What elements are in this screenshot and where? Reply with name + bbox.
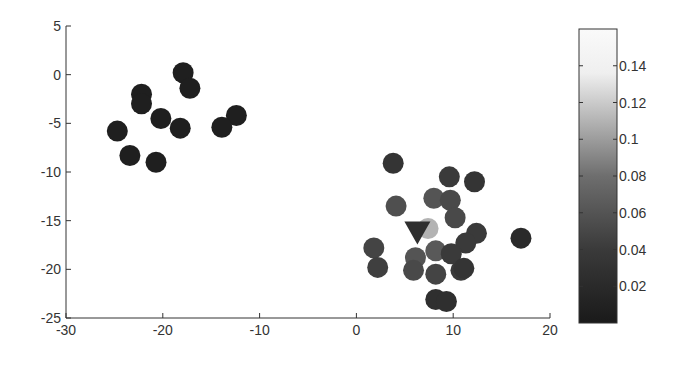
data-point — [131, 93, 152, 114]
plot-area — [107, 62, 532, 312]
data-point — [146, 152, 167, 173]
colorbar-tick-label: 0.04 — [619, 242, 646, 258]
y-tick-label: -15 — [41, 213, 61, 229]
y-tick-label: -5 — [49, 115, 62, 131]
data-point — [150, 108, 171, 129]
data-point — [367, 257, 388, 278]
data-point — [179, 78, 200, 99]
y-tick-label: -25 — [41, 310, 61, 326]
data-point — [436, 291, 457, 312]
x-tick-label: 10 — [445, 322, 461, 338]
data-point — [383, 153, 404, 174]
colorbar-tick-label: 0.08 — [619, 168, 646, 184]
data-point — [445, 207, 466, 228]
y-tick-label: -20 — [41, 261, 61, 277]
x-tick-label: 20 — [542, 322, 558, 338]
y-tick-label: 5 — [53, 18, 61, 34]
colorbar-tick-label: 0.02 — [619, 278, 646, 294]
data-point — [107, 121, 128, 142]
colorbar-gradient — [579, 29, 617, 323]
colorbar-tick-label: 0.1 — [619, 131, 639, 147]
data-point — [464, 171, 485, 192]
data-point — [453, 258, 474, 279]
data-point — [119, 145, 140, 166]
y-tick-label: -10 — [41, 164, 61, 180]
data-point — [403, 260, 424, 281]
y-tick-label: 0 — [53, 67, 61, 83]
data-point — [170, 118, 191, 139]
colorbar-tick-label: 0.12 — [619, 95, 646, 111]
data-point — [211, 117, 232, 138]
data-point — [439, 166, 460, 187]
x-tick-label: 0 — [353, 322, 361, 338]
x-tick-label: -10 — [249, 322, 269, 338]
data-point — [363, 237, 384, 258]
colorbar-tick-label: 0.06 — [619, 205, 646, 221]
data-point — [425, 264, 446, 285]
x-tick-label: -20 — [153, 322, 173, 338]
data-point — [386, 196, 407, 217]
data-point — [510, 228, 531, 249]
colorbar-tick-label: 0.14 — [619, 58, 646, 74]
scatter-chart: -30-20-100102050-5-10-15-20-25 0.020.040… — [0, 0, 683, 368]
colorbar: 0.020.040.060.080.10.120.14 — [579, 29, 646, 323]
